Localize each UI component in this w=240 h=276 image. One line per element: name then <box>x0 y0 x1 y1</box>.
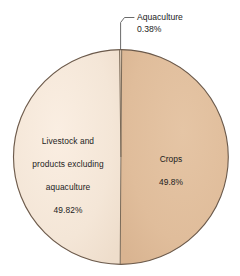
pie-label-livestock-line3: aquaculture <box>16 182 120 194</box>
pie-label-crops-value: 49.8% <box>128 177 214 189</box>
pie-label-aquaculture-value: 0.38% <box>137 23 237 35</box>
pie-label-aquaculture-name: Aquaculture <box>137 11 237 23</box>
pie-label-livestock-value: 49.82% <box>16 205 120 217</box>
pie-chart-figure: Aquaculture 0.38% Livestock and products… <box>0 0 240 276</box>
pie-label-aquaculture: Aquaculture 0.38% <box>137 11 237 35</box>
pie-label-livestock-line1: Livestock and <box>16 136 120 148</box>
pie-divider-bottom <box>120 157 121 264</box>
pie-label-crops-name: Crops <box>128 154 214 166</box>
aquaculture-callout-line <box>121 18 134 50</box>
pie-label-livestock: Livestock and products excluding aquacul… <box>16 124 120 228</box>
pie-label-crops: Crops 49.8% <box>128 142 214 200</box>
pie-label-livestock-line2: products excluding <box>16 159 120 171</box>
